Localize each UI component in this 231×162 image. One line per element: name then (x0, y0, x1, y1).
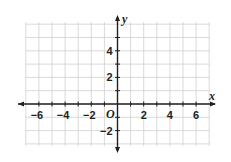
y-tick-label: 4 (106, 45, 113, 57)
x-axis-left-arrow-icon (18, 102, 24, 107)
y-axis-up-arrow-icon (115, 15, 120, 21)
x-tick-label: 2 (141, 109, 147, 121)
x-tick-label: −4 (57, 109, 70, 121)
y-axis-label: y (120, 12, 128, 26)
y-tick-label: 2 (106, 71, 112, 83)
axes (18, 15, 216, 153)
x-axis-label: x (208, 89, 215, 103)
x-tick-label: 6 (193, 109, 199, 121)
y-axis-down-arrow-icon (115, 147, 120, 153)
origin-label: O (106, 107, 115, 121)
y-tick-label: −2 (100, 125, 113, 137)
x-tick-label: 4 (167, 109, 174, 121)
x-tick-label: −6 (31, 109, 44, 121)
coordinate-plane: −6−4−224642−2 x y O (0, 0, 231, 162)
x-tick-label: −2 (83, 109, 96, 121)
